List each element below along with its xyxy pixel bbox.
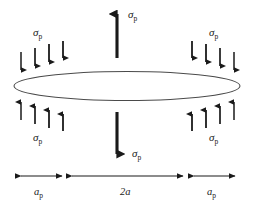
lower-left-subscript: p — [38, 137, 42, 146]
crack-pressure-diagram: σp σp σp σp — [0, 0, 255, 207]
crack-ellipse — [14, 72, 240, 101]
dim-right-subscript: p — [212, 191, 216, 200]
lower-right-subscript: p — [214, 137, 218, 146]
upper-right-subscript: p — [214, 32, 218, 41]
top-resultant-subscript: p — [133, 14, 137, 23]
bottom-resultant-subscript: p — [137, 153, 141, 162]
upper-left-subscript: p — [38, 32, 42, 41]
diagram-canvas: σp σp σp σp — [0, 0, 255, 207]
dim-left-subscript: p — [39, 191, 43, 200]
dimension-crack-diameter-label: 2a — [120, 186, 131, 197]
